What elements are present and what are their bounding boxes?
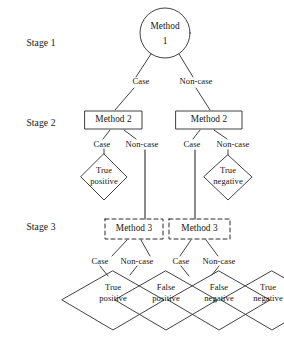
true-negative-stage2-label-line2: negative — [213, 177, 243, 187]
diagram-shapes-layer — [0, 0, 284, 342]
method3-left-label: Method 3 — [116, 224, 152, 233]
false-negative-stage3-label-line2: negative — [204, 294, 234, 304]
edge-label-stage3-left-noncase: Non-case — [121, 257, 154, 266]
edge-method3-right-case — [180, 240, 191, 256]
edge-label-stage2-right-noncase: Non-case — [217, 140, 250, 149]
true-positive-stage2-label-line2: positive — [90, 177, 118, 187]
method2-left-label: Method 2 — [95, 115, 131, 124]
true-positive-stage3-label-line2: positive — [99, 294, 127, 304]
true-negative-stage3-label-line1: True — [260, 283, 276, 293]
false-positive-stage3-label-line1: False — [157, 283, 175, 293]
method1-label-line2: 1 — [163, 37, 168, 46]
true-negative-stage3-label-line2: negative — [253, 294, 283, 304]
edge-method3-left-noncase — [141, 240, 150, 256]
edge-method1-to-method2-left — [136, 54, 151, 77]
edge-label-stage2-left-noncase: Non-case — [126, 140, 159, 149]
edge-label-stage2-right-case: Case — [184, 140, 201, 149]
true-negative-stage2-label-line1: True — [220, 166, 236, 176]
false-negative-stage3-label-line1: False — [210, 283, 228, 293]
true-positive-stage2-label-line1: True — [96, 166, 112, 176]
edge-label-stage1-noncase: Non-case — [180, 77, 213, 86]
edge-label-stage3-left-case: Case — [92, 257, 109, 266]
edge-method3-left-case — [112, 240, 127, 256]
edge-method1-to-method2-right — [179, 54, 193, 77]
method1-circle — [140, 8, 190, 58]
stub-true-negative-stage3 — [212, 266, 219, 275]
edge-label-stage3-right-case: Case — [173, 257, 190, 266]
flowchart-diagram: Stage 1 Stage 2 Stage 3 Method 1 Case No… — [0, 0, 284, 342]
method3-right-label: Method 3 — [181, 224, 217, 233]
stage-label-3: Stage 3 — [26, 222, 55, 232]
method1-label-line1: Method — [150, 22, 179, 31]
method2-right-label: Method 2 — [191, 115, 227, 124]
false-positive-stage3-label-line2: positive — [152, 294, 180, 304]
true-positive-stage3-label-line1: True — [105, 283, 121, 293]
edge-method1-to-method2-left-lower — [115, 88, 134, 110]
stage-label-1: Stage 1 — [26, 38, 55, 48]
edge-label-stage3-right-noncase: Non-case — [203, 257, 236, 266]
stub-false-negative-stage3 — [181, 266, 189, 276]
edge-label-stage1-case: Case — [133, 77, 150, 86]
stub-false-positive-stage3 — [130, 266, 137, 275]
edge-label-stage2-left-case: Case — [94, 140, 111, 149]
stage-label-2: Stage 2 — [26, 118, 55, 128]
edge-method3-right-noncase — [206, 240, 218, 256]
edge-method1-to-method2-right-lower — [196, 88, 210, 110]
